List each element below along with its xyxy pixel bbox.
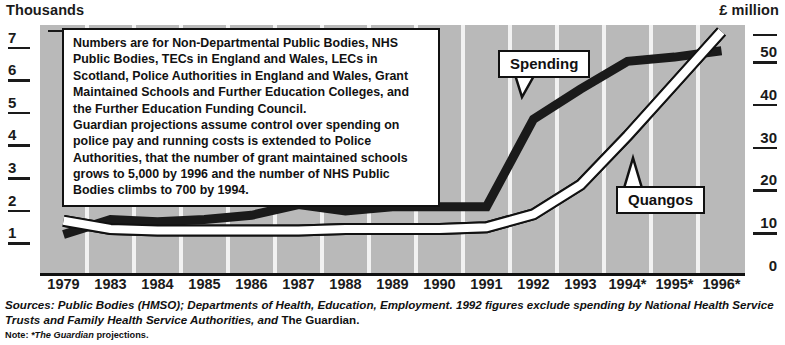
x-label-1992: 1992 — [517, 276, 549, 292]
tick-label: 10 — [753, 215, 777, 230]
note-paragraph-1: Numbers are for Non-Departmental Public … — [73, 35, 430, 117]
left-axis-caption: Thousands — [6, 2, 84, 18]
tick-label: 50 — [753, 44, 777, 59]
tick-label: 7 — [8, 30, 30, 45]
tick-dash — [8, 112, 30, 115]
tick-dash — [8, 210, 30, 213]
note-italic: *The Guardian — [31, 330, 94, 340]
x-label-1989: 1989 — [376, 276, 408, 292]
note-paragraph-2: Guardian projections assume control over… — [73, 117, 430, 199]
tick-label: 0 — [769, 258, 777, 273]
tick-label: 20 — [753, 172, 777, 187]
tick-dash — [8, 177, 30, 180]
x-axis-labels: 1979198319841985198619871988198919901991… — [0, 276, 785, 298]
right-tick-10: 10 — [753, 215, 777, 235]
x-label-1984: 1984 — [141, 276, 173, 292]
x-label-1990: 1990 — [423, 276, 455, 292]
sources-guardian: The Guardian. — [281, 313, 359, 326]
right-tick-0: 0 — [769, 258, 777, 273]
tick-label: 6 — [8, 62, 30, 77]
note-rest: projections. — [94, 330, 149, 340]
sources-note: Sources: Public Bodies (HMSO); Departmen… — [5, 297, 780, 328]
left-tick-2: 2 — [8, 193, 30, 213]
tick-label: 30 — [753, 130, 777, 145]
right-tick-50: 50 — [753, 44, 777, 64]
tick-dash — [8, 242, 30, 245]
tick-dash — [753, 189, 777, 192]
left-tick-6: 6 — [8, 62, 30, 82]
right-tick-dash-top — [753, 34, 777, 37]
left-tick-3: 3 — [8, 160, 30, 180]
x-label-1983: 1983 — [94, 276, 126, 292]
callout-quangos: Quangos — [616, 186, 705, 214]
right-tick-20: 20 — [753, 172, 777, 192]
x-label-1995p: 1995* — [656, 276, 694, 292]
right-tick-40: 40 — [753, 87, 777, 107]
tick-dash — [753, 61, 777, 64]
right-axis-caption: £ million — [719, 2, 779, 18]
tick-dash — [753, 232, 777, 235]
right-tick-30: 30 — [753, 130, 777, 150]
tick-dash — [753, 104, 777, 107]
tick-dash — [753, 147, 777, 150]
left-tick-7: 7 — [8, 30, 30, 50]
x-label-1996p: 1996* — [703, 276, 741, 292]
sources-text: Sources: Public Bodies (HMSO); Departmen… — [5, 298, 774, 326]
x-label-1994p: 1994* — [609, 276, 647, 292]
tick-dash — [8, 79, 30, 82]
tick-label: 5 — [8, 95, 30, 110]
tick-label: 3 — [8, 160, 30, 175]
asterisk-note: Note: *The Guardian projections. — [5, 330, 780, 341]
x-label-1991: 1991 — [470, 276, 502, 292]
x-label-1986: 1986 — [235, 276, 267, 292]
tick-dash — [8, 47, 30, 50]
tick-label: 4 — [8, 127, 30, 142]
x-label-1979: 1979 — [47, 276, 79, 292]
x-label-1985: 1985 — [188, 276, 220, 292]
quangos-spending-chart: Thousands £ million 7654321 50403020100 … — [0, 0, 785, 345]
left-tick-5: 5 — [8, 95, 30, 115]
explanatory-note-box: Numbers are for Non-Departmental Public … — [62, 28, 440, 207]
callout-spending: Spending — [498, 50, 590, 78]
tick-label: 40 — [753, 87, 777, 102]
tick-label: 2 — [8, 193, 30, 208]
left-tick-1: 1 — [8, 225, 30, 245]
x-label-1987: 1987 — [282, 276, 314, 292]
left-tick-4: 4 — [8, 127, 30, 147]
tick-label: 1 — [8, 225, 30, 240]
x-label-1988: 1988 — [329, 276, 361, 292]
tick-dash — [8, 144, 30, 147]
x-label-1993: 1993 — [564, 276, 596, 292]
note-label: Note: — [5, 330, 31, 340]
